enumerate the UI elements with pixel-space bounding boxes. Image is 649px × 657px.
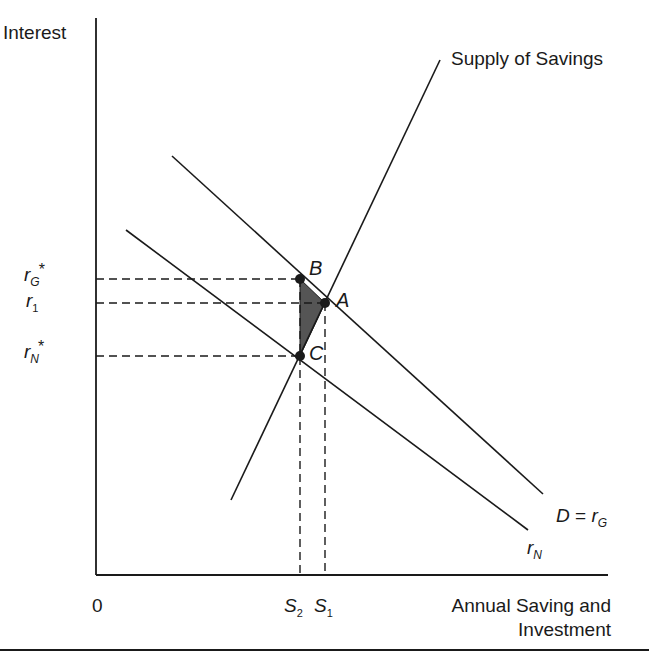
x-axis-label-line2: Investment (518, 620, 611, 639)
tick-r1: r1 (26, 291, 38, 310)
rn-sub: N (533, 548, 542, 562)
point-a (320, 298, 330, 308)
x-axis-label-line1: Annual Saving and (451, 596, 611, 615)
demand-rg-line (172, 156, 543, 494)
origin-label: 0 (92, 596, 103, 615)
y-axis-label: Interest (3, 23, 66, 42)
demand-eq: = (575, 505, 586, 526)
point-c (295, 351, 305, 361)
demand-r: r (591, 505, 597, 526)
rn-label: rN (527, 538, 542, 557)
tick-rg-star: rG* (24, 265, 46, 284)
tick-rn-star: rN* (24, 342, 45, 361)
demand-rg-label: D = rG (556, 506, 607, 525)
point-b (295, 274, 305, 284)
tick-s2: S2 (284, 596, 303, 615)
dashed-guides (96, 279, 325, 575)
diagram-canvas (0, 0, 649, 657)
supply-of-savings-line (231, 60, 440, 500)
demand-d: D (556, 505, 570, 526)
tick-s1: S1 (314, 596, 333, 615)
demand-sub: G (598, 516, 607, 530)
supply-label: Supply of Savings (451, 49, 603, 68)
point-b-label: B (309, 258, 322, 278)
point-c-label: C (309, 343, 323, 363)
rn-line (126, 230, 528, 530)
point-a-label: A (336, 290, 349, 310)
